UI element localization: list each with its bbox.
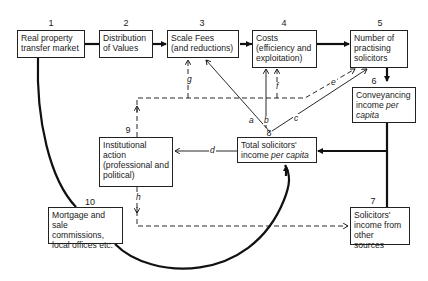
node-9-institutional-action: Institutional action (professional and p… [99,137,173,187]
edge-9-7-h [137,187,348,226]
node-9-line-2: action [103,150,169,160]
node-8-line-2b: per capita [271,150,309,160]
node-7-line-1: Solicitors' [354,210,406,220]
node-4-costs: Costs (efficiency and exploitation) [252,30,317,68]
node-4-line-2: (efficiency and [256,43,313,53]
node-1-line-1: Real property [21,33,81,43]
node-number-10: 10 [81,197,99,207]
node-4-line-3: exploitation) [256,53,313,63]
node-3-scale-fees: Scale Fees (and reductions) [167,30,239,58]
edge-8-3-a [206,60,270,132]
node-7-solicitors-income-other-sources: Solicitors' income from other sources [350,207,410,245]
node-8-total-solicitors-income-per-capita: Total solicitors' income per capita [237,137,317,163]
node-2-line-1: Distribution [103,33,149,43]
node-2-line-2: of Values [103,43,149,53]
node-5-number-of-practising-solicitors: Number of practising solicitors [350,30,408,68]
edge-label-f: f [275,82,279,91]
node-number-2: 2 [119,18,133,28]
edge-label-a: a [248,116,255,125]
solicitors-income-diagram: 1 2 3 4 5 6 7 8 9 10 Real property trans… [0,0,428,281]
node-number-1: 1 [44,18,58,28]
node-8-line-1: Total solicitors' [241,140,313,150]
node-1-real-property-transfer-market: Real property transfer market [17,30,85,58]
edge-label-d: d [209,146,216,155]
node-6-line-1: Conveyancing [356,90,412,100]
node-6-conveyancing-income-per-capita: Conveyancing income per capita [352,87,416,123]
node-10-line-2: sale commissions, [52,220,119,240]
node-number-4: 4 [277,18,291,28]
edge-label-c: c [293,114,299,123]
edge-label-e: e [330,78,337,87]
node-10-line-1: Mortgage and [52,210,119,220]
node-9-line-4: political) [103,170,169,180]
node-1-line-2: transfer market [21,43,81,53]
edge-label-b: b [263,116,270,125]
node-10-mortgage-and-sale-commissions: Mortgage and sale commissions, local off… [48,207,123,244]
node-7-line-3: other sources [354,230,406,250]
edge-label-g: g [186,75,193,84]
node-number-9: 9 [121,125,135,135]
node-3-line-2: (and reductions) [171,43,235,53]
node-number-6: 6 [367,76,381,86]
node-5-line-3: solicitors [354,53,404,63]
node-3-line-1: Scale Fees [171,33,235,43]
node-6-line-2b: per [386,100,398,110]
node-5-line-1: Number of [354,33,404,43]
node-9-line-1: Institutional [103,140,169,150]
node-number-5: 5 [373,18,387,28]
node-8-line-2a: income [241,150,271,160]
node-6-line-3: capita [356,110,412,120]
node-6-line-2: income per [356,100,412,110]
node-6-line-2a: income [356,100,386,110]
edge-9-dashed-trunk [137,69,355,137]
node-8-line-2: income per capita [241,150,313,160]
node-7-line-2: income from [354,220,406,230]
node-4-line-1: Costs [256,33,313,43]
node-5-line-2: practising [354,43,404,53]
edge-label-h: h [135,193,142,202]
node-number-7: 7 [366,196,380,206]
node-number-3: 3 [195,18,209,28]
node-10-line-3: local offices etc. [52,240,119,250]
node-9-line-3: (professional and [103,160,169,170]
node-2-distribution-of-values: Distribution of Values [99,30,153,58]
